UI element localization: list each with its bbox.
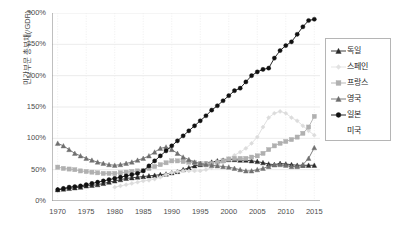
y-axis-tick-label: 250% (6, 39, 46, 48)
legend-item-5[interactable]: 미국 (328, 123, 388, 139)
legend-item-1[interactable]: 스페인 (328, 59, 388, 75)
data-point (244, 156, 248, 160)
data-point (267, 148, 271, 152)
data-point (113, 176, 117, 180)
data-point (272, 144, 276, 148)
data-point (113, 185, 117, 189)
series-line-스페인 (115, 111, 315, 187)
data-point (227, 157, 231, 161)
data-point (124, 174, 128, 178)
y-axis-tick-label: 50% (6, 165, 46, 174)
legend-marker-shape (336, 81, 341, 86)
data-point (336, 81, 341, 86)
data-point (261, 125, 265, 129)
data-point (56, 165, 60, 169)
data-point (232, 89, 236, 93)
data-point (73, 168, 77, 172)
data-point (278, 141, 282, 145)
data-point (232, 156, 236, 160)
chart-figure: 민간부문 총부채(/GDP) 0%50%100%150%200%250%300%… (0, 0, 395, 231)
data-point (147, 178, 151, 182)
data-point (175, 151, 180, 156)
data-point (73, 184, 77, 188)
data-point (78, 184, 82, 188)
data-point (192, 124, 196, 128)
data-point (67, 167, 71, 171)
legend-label: 독일 (347, 44, 361, 58)
y-axis-tick-label: 200% (6, 71, 46, 80)
data-point (147, 164, 151, 168)
data-point (158, 154, 162, 158)
data-point (336, 65, 341, 70)
data-point (204, 168, 208, 172)
chart-legend: 독일스페인프랑스영국일본미국 (325, 38, 391, 141)
legend-item-4[interactable]: 일본 (328, 107, 388, 123)
y-axis-tick-label: 300% (6, 8, 46, 17)
data-point (84, 183, 88, 187)
legend-marker-icon (330, 44, 347, 58)
legend-marker-icon (330, 108, 347, 122)
data-point (261, 151, 265, 155)
data-point (272, 56, 276, 60)
data-point (130, 173, 134, 177)
data-point (181, 155, 186, 160)
legend-item-0[interactable]: 독일 (328, 43, 388, 59)
data-point (261, 67, 265, 71)
data-point (289, 137, 293, 141)
data-point (78, 153, 83, 158)
data-point (118, 175, 122, 179)
data-point (78, 169, 82, 173)
legend-item-2[interactable]: 프랑스 (328, 75, 388, 91)
data-point (101, 171, 105, 175)
legend-label: 스페인 (347, 60, 368, 74)
data-point (238, 86, 242, 90)
data-point (204, 114, 208, 118)
data-point (55, 141, 60, 146)
data-point (301, 131, 305, 135)
y-axis-tick-label: 100% (6, 133, 46, 142)
data-point (118, 184, 122, 188)
legend-label: 영국 (347, 92, 361, 106)
legend-item-3[interactable]: 영국 (328, 91, 388, 107)
x-axis-tick-label: 2015 (294, 207, 334, 216)
data-point (312, 114, 316, 118)
data-point (249, 74, 253, 78)
data-point (170, 144, 174, 148)
data-point (312, 145, 317, 150)
data-point (141, 179, 145, 183)
legend-label: 일본 (347, 108, 361, 122)
y-axis-tick-label: 0% (6, 196, 46, 205)
data-point (113, 171, 117, 175)
legend-marker-icon (330, 92, 347, 106)
data-point (336, 113, 341, 118)
series-3 (55, 141, 316, 173)
data-point (289, 40, 293, 44)
data-point (141, 169, 145, 173)
data-point (135, 171, 139, 175)
legend-marker-icon (330, 124, 347, 138)
data-point (72, 151, 77, 156)
data-point (278, 109, 282, 113)
data-point (56, 188, 60, 192)
data-point (67, 185, 71, 189)
y-axis-tick-label: 150% (6, 102, 46, 111)
legend-label: 미국 (347, 124, 361, 138)
data-point (164, 145, 169, 150)
data-point (295, 32, 299, 36)
data-point (84, 156, 89, 161)
data-point (267, 66, 271, 70)
data-point (278, 49, 282, 53)
data-point (107, 171, 111, 175)
data-point (244, 80, 248, 84)
data-point (175, 139, 179, 143)
data-point (107, 178, 111, 182)
data-point (61, 143, 66, 148)
data-point (67, 147, 72, 152)
data-point (187, 129, 191, 133)
data-point (215, 104, 219, 108)
data-point (181, 159, 185, 163)
plot-area (52, 13, 320, 201)
data-point (255, 70, 259, 74)
data-point (255, 154, 259, 158)
data-point (306, 156, 311, 161)
